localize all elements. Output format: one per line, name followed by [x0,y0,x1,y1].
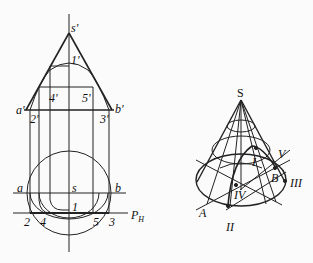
label-a-prime: a' [16,104,25,116]
label-b: b [115,182,121,194]
label-a: a [17,182,23,194]
label-5-prime: 5' [82,92,91,104]
label-III: III [290,177,302,189]
line-drawing [0,0,313,263]
label-3-prime: 3' [100,113,109,125]
label-plane-ph: PH [131,209,144,224]
label-V: V [278,148,285,160]
label-b-prime: b' [115,103,124,115]
label-s-prime: s' [71,22,78,34]
label-s: s [72,182,77,194]
label-2: 2 [24,216,30,228]
label-5: 5 [93,216,99,228]
label-A: A [199,207,206,219]
label-2-prime: 2' [30,113,39,125]
cone-left-generatrix [26,33,69,110]
label-S: S [237,87,244,99]
label-IV: IV [234,189,245,201]
label-B: B [271,172,278,184]
label-1: 1 [72,201,78,213]
drawing-canvas: s' 1' 4' 5' a' b' 2' 3' a s b 1 2 4 5 3 … [0,0,313,263]
label-II: II [226,221,234,233]
label-3: 3 [109,216,115,228]
label-4-prime: 4' [49,92,58,104]
label-4: 4 [40,216,46,228]
label-1-prime: 1' [71,54,80,66]
label-I: I [252,156,256,168]
